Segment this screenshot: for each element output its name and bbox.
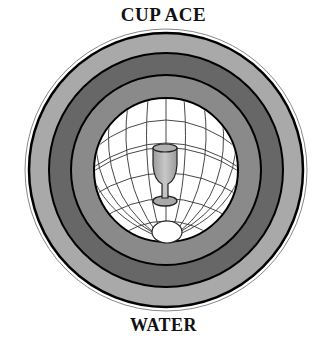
card-element-label: WATER: [0, 315, 327, 336]
pole: [152, 221, 182, 243]
water-emblem: [0, 0, 327, 344]
goblet-rim: [153, 144, 177, 152]
